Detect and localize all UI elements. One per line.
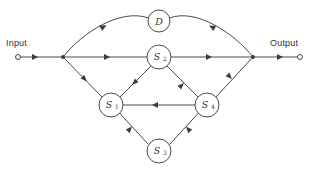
arrow-junction-to-output — [277, 54, 283, 60]
node-d-label: D — [154, 16, 163, 27]
arrow-junction-to-s2 — [104, 54, 110, 60]
arrow-d-arc-right — [209, 26, 216, 32]
node-s2-subscript: 2 — [163, 55, 167, 62]
node-s3-label: S — [154, 145, 161, 156]
output-junction-dot — [251, 55, 255, 59]
node-s1-label: S — [106, 99, 113, 110]
edge-s4-to-junction — [216, 57, 254, 98]
edge-d-arc-right — [170, 16, 254, 57]
input-terminal-circle[interactable] — [16, 55, 21, 60]
flow-graph-canvas: D S 2 S 1 S 4 S 3 — [0, 0, 318, 172]
node-s4-subscript: 4 — [211, 103, 215, 110]
edge-d-arc-left — [63, 16, 149, 57]
node-s2-label: S — [154, 51, 161, 62]
input-junction-dot — [61, 55, 65, 59]
node-s1-subscript: 1 — [115, 103, 119, 110]
edge-s4-to-s3 — [170, 113, 199, 144]
arrow-input-to-junction — [32, 54, 38, 60]
signal-flow-graph-diagram: Input Output — [0, 0, 318, 172]
arrow-s2-to-junction — [206, 54, 212, 60]
arrow-s2-to-s4 — [178, 83, 184, 90]
edge-s2-to-s4 — [167, 66, 199, 98]
arrow-s4-to-junction — [226, 72, 232, 79]
arrow-d-arc-left — [99, 25, 107, 31]
arrow-s4-to-s1 — [152, 102, 158, 108]
arrow-s1-to-s3 — [126, 127, 132, 134]
node-s3-subscript: 3 — [163, 149, 167, 156]
edge-s1-to-s3 — [120, 113, 149, 144]
node-s4-label: S — [202, 99, 209, 110]
arrow-s4-to-s3 — [186, 127, 192, 134]
output-terminal-circle[interactable] — [298, 55, 303, 60]
